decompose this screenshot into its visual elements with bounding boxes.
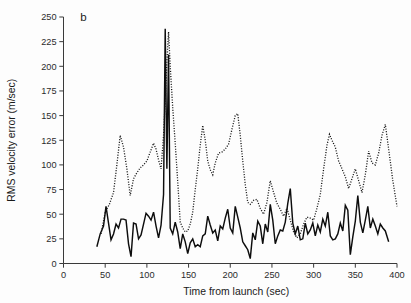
y-tick-label: 50 [46, 210, 56, 220]
x-tick-label: 250 [264, 270, 279, 280]
data-series [97, 29, 397, 259]
y-tick-label: 100 [41, 160, 56, 170]
y-tick-label: 250 [41, 12, 56, 22]
y-tick-label: 75 [46, 185, 56, 195]
panel-label: b [80, 11, 86, 23]
y-tick-label: 175 [41, 86, 56, 96]
x-tick-label: 150 [181, 270, 196, 280]
chart-canvas: 0255075100125150175200225250050100150200… [0, 0, 411, 303]
series-solid [97, 29, 389, 259]
figure-panel: 0255075100125150175200225250050100150200… [0, 0, 411, 303]
y-tick-label: 125 [41, 136, 56, 146]
y-tick-label: 0 [51, 259, 56, 269]
x-tick-label: 400 [389, 270, 404, 280]
series-dotted [101, 32, 397, 238]
x-tick-label: 350 [348, 270, 363, 280]
x-tick-label: 50 [100, 270, 110, 280]
x-axis-title: Time from launch (sec) [183, 286, 289, 297]
y-tick-label: 225 [41, 37, 56, 47]
x-tick-label: 0 [61, 270, 66, 280]
y-axis-title: RMS velocity error (m/sec) [6, 79, 17, 202]
x-tick-label: 100 [139, 270, 154, 280]
x-tick-label: 300 [306, 270, 321, 280]
x-tick-label: 200 [223, 270, 238, 280]
axis-labels: 0255075100125150175200225250050100150200… [6, 11, 405, 297]
y-tick-label: 25 [46, 234, 56, 244]
y-tick-label: 150 [41, 111, 56, 121]
y-tick-label: 200 [41, 62, 56, 72]
